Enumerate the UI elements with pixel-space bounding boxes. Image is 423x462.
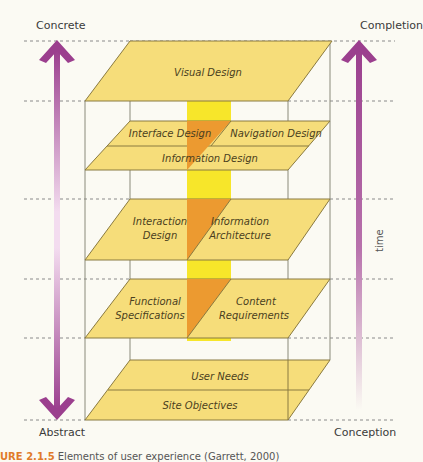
plane-strategy: User Needs Site Objectives [85, 360, 330, 420]
plane-structure: Interaction Design Information Architect… [85, 199, 330, 260]
svg-text:Interface Design: Interface Design [129, 128, 211, 139]
time-arrow [341, 40, 377, 410]
svg-text:Design: Design [143, 230, 178, 241]
svg-text:Specifications: Specifications [115, 310, 185, 321]
svg-text:Information: Information [211, 216, 269, 227]
svg-text:Functional: Functional [129, 296, 181, 307]
svg-text:Navigation Design: Navigation Design [230, 128, 322, 139]
figure-caption-text: Elements of user experience (Garrett, 20… [58, 451, 280, 462]
svg-text:Content: Content [236, 296, 277, 307]
plane-skeleton: Interface Design Navigation Design Infor… [85, 121, 330, 170]
plane-visual-design: Visual Design [85, 41, 332, 101]
svg-text:User Needs: User Needs [191, 371, 248, 382]
visual-design-label: Visual Design [174, 67, 242, 78]
svg-text:Requirements: Requirements [219, 310, 289, 321]
svg-text:Architecture: Architecture [208, 230, 271, 241]
svg-text:Site Objectives: Site Objectives [162, 400, 237, 411]
svg-text:Information Design: Information Design [162, 153, 258, 164]
figure-number: URE 2.1.5 [0, 451, 55, 462]
figure-caption: URE 2.1.5 Elements of user experience (G… [0, 451, 279, 462]
plane-scope: Functional Specifications Content Requir… [85, 279, 330, 338]
svg-text:Interaction: Interaction [133, 216, 187, 227]
concrete-abstract-arrow [39, 40, 75, 420]
